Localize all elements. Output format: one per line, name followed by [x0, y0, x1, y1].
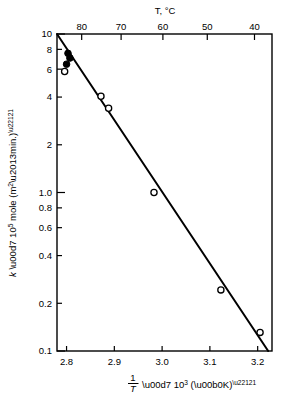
open-circle-marker: [62, 68, 68, 74]
filled-circle-marker: [67, 55, 74, 62]
svg-text:\u00d7 103 (\u00b0K)\u22121: \u00d7 103 (\u00b0K)\u22121: [142, 379, 256, 390]
top-tick-label: 80: [76, 21, 87, 32]
plot-canvas: T, °C 8070605040 2.82.93.03.13.2 1086421…: [0, 0, 293, 404]
arrhenius-plot-figure: T, °C 8070605040 2.82.93.03.13.2 1086421…: [0, 0, 293, 404]
left-tick-label: 1.0: [39, 187, 52, 198]
svg-text:1: 1: [130, 372, 135, 383]
bottom-tick-label: 3.1: [203, 356, 216, 367]
top-tick-label: 70: [116, 21, 127, 32]
top-tick-label: 50: [202, 21, 213, 32]
left-axis-ticks: [57, 34, 65, 351]
top-tick-label: 60: [158, 21, 169, 32]
open-circle-marker: [98, 93, 104, 99]
left-tick-label: 2: [47, 139, 52, 150]
left-tick-label: 0.6: [39, 222, 52, 233]
left-tick-label: 0.8: [39, 202, 52, 213]
left-tick-label: 6: [47, 64, 52, 75]
left-tick-label: 0.4: [39, 250, 52, 261]
left-tick-label: 0.2: [39, 298, 52, 309]
top-axis-tick-labels: 8070605040: [76, 21, 259, 32]
top-axis-title: T, °C: [155, 5, 176, 16]
top-axis-ticks: [82, 34, 255, 40]
top-tick-label: 40: [249, 21, 260, 32]
bottom-tick-label: 2.8: [60, 356, 73, 367]
left-tick-label: 4: [47, 91, 52, 102]
filled-circle-data-points: [63, 50, 73, 67]
bottom-tick-label: 2.9: [108, 356, 121, 367]
left-axis-tick-labels: 1086421.00.80.60.40.20.1: [39, 28, 52, 356]
svg-text:T: T: [130, 383, 137, 394]
fit-line: [57, 34, 268, 351]
left-tick-label: 8: [47, 44, 52, 55]
x-axis-fraction-one-over-t: 1 T \u00d7 103 (\u00b0K)\u22121: [128, 372, 256, 394]
filled-circle-marker: [63, 61, 70, 68]
open-circle-data-points: [62, 68, 264, 335]
y-axis-title: k \u00d7 105 mole (m2\u2013min.)\u22121: [7, 109, 18, 277]
bottom-tick-label: 3.2: [251, 356, 264, 367]
left-tick-label: 10: [41, 28, 52, 39]
open-circle-marker: [106, 105, 112, 111]
bottom-tick-label: 3.0: [156, 356, 169, 367]
svg-text:k \u00d7 105 mole (m2\u2013min: k \u00d7 105 mole (m2\u2013min.)\u22121: [7, 109, 18, 277]
open-circle-marker: [151, 189, 157, 195]
bottom-axis-ticks: [67, 346, 258, 351]
bottom-axis-tick-labels: 2.82.93.03.13.2: [60, 356, 264, 367]
open-circle-marker: [218, 287, 224, 293]
left-tick-label: 0.1: [39, 345, 52, 356]
open-circle-marker: [257, 329, 263, 335]
